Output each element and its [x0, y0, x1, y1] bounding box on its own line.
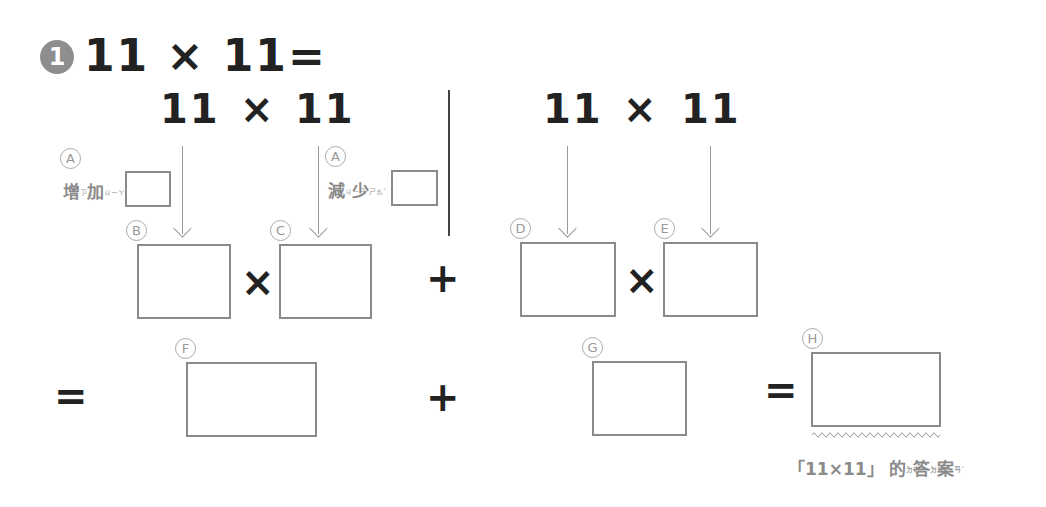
label-g: G — [582, 337, 603, 358]
hint-decrease-char-2: 少 — [352, 181, 369, 201]
right-operand-a: 11 — [543, 86, 603, 132]
answer-caption-char-3: 案 — [937, 459, 954, 479]
left-operator: × — [240, 86, 276, 132]
row1-left-times: × — [241, 262, 275, 302]
row1-plus: + — [426, 258, 460, 298]
label-b: B — [126, 220, 147, 241]
left-operand-a: 11 — [160, 86, 220, 132]
hint-increase-ruby-1: ㄗㄥ — [80, 190, 87, 197]
label-a-left: A — [60, 148, 81, 169]
label-f: F — [175, 338, 196, 359]
row2-equals-final: = — [764, 370, 798, 410]
input-box-a-decrease[interactable] — [391, 170, 438, 206]
problem-number-badge: 1 — [40, 40, 74, 74]
right-operator: × — [623, 86, 659, 132]
label-e: E — [654, 218, 675, 239]
problem-title-expression: 11 × 11= — [84, 30, 327, 81]
hint-decrease: 減ㄐㄧㄢˇ少ㄕㄠˇ — [328, 177, 376, 202]
input-box-e[interactable] — [663, 242, 758, 317]
hint-increase-ruby-2: ㄐㄧㄚ — [104, 190, 111, 197]
left-operand-b: 11 — [295, 86, 355, 132]
input-box-f[interactable] — [186, 362, 317, 437]
answer-caption-prefix: 「11×11」 — [788, 459, 884, 479]
input-box-c[interactable] — [279, 244, 372, 319]
wavy-underline-icon — [812, 430, 940, 440]
label-c: C — [270, 220, 291, 241]
hint-increase: 增ㄗㄥ加ㄐㄧㄚ — [63, 178, 111, 203]
input-box-b[interactable] — [137, 244, 231, 319]
hint-decrease-ruby-1: ㄐㄧㄢˇ — [345, 189, 352, 196]
label-d: D — [510, 218, 531, 239]
row2-plus: + — [426, 377, 460, 417]
row1-right-times: × — [625, 260, 659, 300]
hint-decrease-ruby-2: ㄕㄠˇ — [369, 189, 376, 196]
hint-increase-char-1: 增 — [63, 182, 80, 202]
arrow-head-icon — [173, 219, 191, 237]
right-operand-b: 11 — [681, 86, 741, 132]
hint-decrease-char-1: 減 — [328, 181, 345, 201]
row2-equals: = — [54, 376, 88, 416]
input-box-g[interactable] — [592, 361, 687, 436]
input-box-a-increase[interactable] — [125, 171, 171, 207]
answer-caption: 「11×11」 的ㄉㄜ˙答ㄉㄚˊ案ㄢˋ — [788, 455, 961, 480]
arrow-head-icon — [558, 219, 576, 237]
answer-caption-char-2: 答 — [913, 459, 930, 479]
answer-caption-char-1: 的 — [889, 459, 906, 479]
arrow-head-icon — [309, 219, 327, 237]
section-divider — [448, 90, 450, 236]
input-box-h-answer[interactable] — [811, 352, 941, 427]
input-box-d[interactable] — [520, 242, 616, 317]
answer-caption-ruby-3: ㄢˋ — [954, 467, 961, 474]
label-a-right: A — [325, 146, 346, 167]
arrow-head-icon — [701, 219, 719, 237]
label-h: H — [802, 328, 823, 349]
hint-increase-char-2: 加 — [87, 182, 104, 202]
